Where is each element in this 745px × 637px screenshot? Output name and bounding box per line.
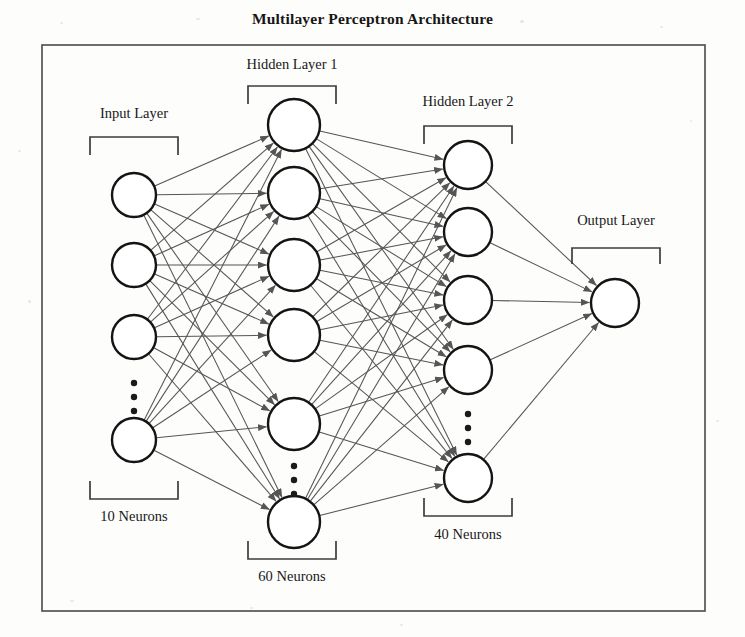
- network-diagram: Input Layer10 NeuronsHidden Layer 160 Ne…: [0, 0, 745, 637]
- neuron-node: [268, 496, 320, 548]
- layer-label: Hidden Layer 1: [247, 56, 338, 72]
- nodes-layer: [112, 99, 639, 548]
- connection-edge: [309, 147, 453, 350]
- figure-root: Multilayer Perceptron Architecture Input…: [0, 0, 745, 637]
- neuron-node: [112, 315, 156, 359]
- layer-label: Hidden Layer 2: [423, 93, 514, 109]
- neuron-node: [444, 454, 492, 502]
- ellipsis-dot: [465, 439, 471, 445]
- connection-edge: [490, 314, 592, 360]
- neuron-node: [268, 398, 320, 450]
- ellipsis-dot: [131, 394, 137, 400]
- connection-edge: [493, 301, 590, 303]
- connection-edge: [320, 169, 443, 189]
- connection-edge: [151, 210, 273, 317]
- neuron-node: [268, 99, 320, 151]
- connection-edge: [157, 193, 267, 194]
- neuron-node: [591, 279, 639, 327]
- connection-edge: [317, 207, 447, 287]
- connection-edge: [310, 320, 452, 501]
- ellipsis-dot: [291, 477, 297, 483]
- connection-edge: [153, 350, 271, 428]
- brackets-layer: [90, 86, 660, 559]
- connection-edge: [308, 254, 455, 499]
- neuron-node: [112, 418, 156, 462]
- neuron-count-label: 10 Neurons: [100, 508, 168, 524]
- neuron-node: [444, 141, 492, 189]
- ellipsis-dot: [465, 425, 471, 431]
- neuron-count-label: 40 Neurons: [434, 526, 502, 542]
- connection-edge: [155, 136, 269, 186]
- neuron-node: [268, 309, 320, 361]
- neuron-node: [444, 208, 492, 256]
- ellipsis-dot: [465, 411, 471, 417]
- connection-edge: [319, 432, 443, 471]
- neuron-node: [268, 239, 320, 291]
- neuron-node: [268, 167, 320, 219]
- layer-label: Output Layer: [577, 212, 655, 228]
- neuron-node: [112, 243, 156, 287]
- ellipsis-dot: [291, 463, 297, 469]
- connection-edge: [309, 186, 454, 402]
- labels-layer: Input Layer10 NeuronsHidden Layer 160 Ne…: [100, 56, 655, 584]
- connection-edge: [313, 212, 451, 352]
- ellipsis-dot: [131, 380, 137, 386]
- connection-edge: [484, 323, 599, 460]
- neuron-count-label: 60 Neurons: [258, 568, 326, 584]
- connection-edge: [155, 274, 269, 324]
- layer-bracket-bottom: [90, 481, 178, 499]
- connection-edge: [308, 216, 455, 457]
- connection-edge: [157, 335, 267, 336]
- layer-label: Input Layer: [100, 105, 168, 121]
- connection-edge: [486, 182, 597, 286]
- neuron-node: [112, 173, 156, 217]
- connection-edge: [317, 245, 446, 322]
- ellipsis-dot: [131, 408, 137, 414]
- connection-edge: [311, 286, 452, 459]
- connection-edge: [154, 450, 270, 509]
- connection-edge: [320, 199, 443, 227]
- connection-edge: [317, 178, 446, 252]
- connection-edge: [148, 147, 278, 319]
- neuron-node: [444, 346, 492, 394]
- edges-layer: [144, 131, 599, 516]
- ellipsis-dot: [291, 491, 297, 497]
- layer-bracket-top: [90, 137, 178, 155]
- neuron-node: [444, 276, 492, 324]
- layer-bracket-top: [572, 248, 660, 264]
